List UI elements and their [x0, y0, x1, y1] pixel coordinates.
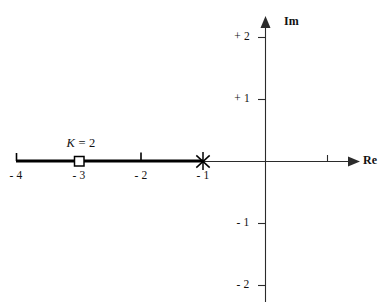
real-tick-label-minus2: - 2 — [134, 170, 147, 182]
root-locus-figure: Re Im - 4 - 3 - 2 - 1 + 2 + 1 - 1 - 2 K … — [0, 0, 380, 302]
real-axis-label: Re — [363, 154, 377, 166]
figure-canvas — [0, 0, 380, 302]
imaginary-tick-label-minus1: - 1 — [236, 217, 249, 229]
gain-value: 2 — [89, 136, 95, 150]
imaginary-axis-arrowhead — [261, 16, 271, 28]
gain-annotation: K = 2 — [67, 137, 96, 150]
gain-symbol: K — [67, 136, 76, 150]
imaginary-tick-label-minus2: - 2 — [236, 279, 249, 291]
gain-equals: = — [75, 136, 89, 150]
real-tick-label-minus3: - 3 — [72, 170, 85, 182]
imaginary-tick-label-plus1: + 1 — [234, 93, 250, 105]
imaginary-tick-label-plus2: + 2 — [234, 31, 250, 43]
imaginary-axis-label: Im — [284, 15, 299, 27]
real-tick-label-minus4: - 4 — [9, 170, 22, 182]
real-axis-arrowhead — [348, 157, 360, 167]
gain-point-square-marker — [75, 157, 85, 167]
real-tick-label-minus1: - 1 — [196, 170, 209, 182]
